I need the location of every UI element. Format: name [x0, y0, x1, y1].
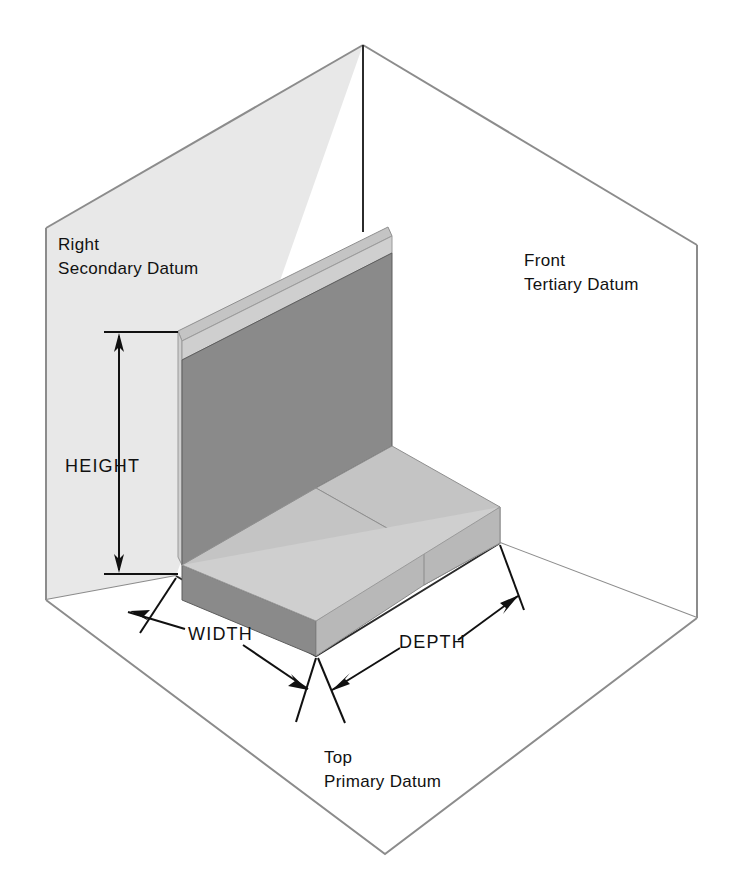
diagram-canvas: HEIGHT WIDTH DEPTH — [0, 0, 743, 895]
datum-reference-frame-diagram: HEIGHT WIDTH DEPTH — [0, 0, 743, 895]
secondary-datum-label-line1: Right — [58, 235, 99, 254]
tertiary-datum-label-line1: Front — [524, 251, 565, 270]
primary-datum-label-line2: Primary Datum — [324, 772, 441, 791]
height-label: HEIGHT — [65, 456, 140, 476]
wall-left-side-face — [178, 331, 182, 565]
depth-label: DEPTH — [399, 632, 466, 652]
width-label: WIDTH — [188, 624, 253, 644]
secondary-datum-label-line2: Secondary Datum — [58, 259, 199, 278]
primary-datum-label-line1: Top — [324, 748, 352, 767]
tertiary-datum-label-line2: Tertiary Datum — [524, 275, 639, 294]
